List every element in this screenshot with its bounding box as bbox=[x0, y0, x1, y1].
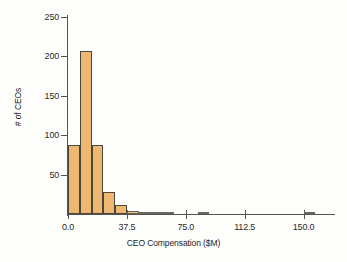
histogram-bar bbox=[92, 145, 104, 214]
histogram-bar bbox=[304, 212, 316, 214]
x-axis-tick bbox=[245, 210, 246, 219]
y-axis-tick bbox=[61, 175, 68, 176]
y-axis-tick-label: 150 bbox=[19, 91, 59, 101]
x-axis-tick-label: 75.0 bbox=[163, 222, 209, 232]
y-axis-tick bbox=[61, 17, 68, 18]
plot-area bbox=[68, 17, 333, 214]
y-axis-tick bbox=[61, 135, 68, 136]
histogram-bar bbox=[150, 212, 162, 214]
histogram-bar bbox=[198, 212, 210, 214]
histogram-chart: # of CEOs CEO Compensation ($M) 50100150… bbox=[0, 0, 347, 262]
x-axis-tick-label: 37.5 bbox=[104, 222, 150, 232]
histogram-bar bbox=[103, 192, 115, 214]
y-axis-tick-label: 100 bbox=[19, 130, 59, 140]
x-axis-line bbox=[67, 214, 335, 215]
x-axis-tick bbox=[186, 210, 187, 219]
y-axis-tick bbox=[61, 96, 68, 97]
y-axis-title: # of CEOs bbox=[13, 77, 23, 137]
histogram-bar bbox=[115, 205, 127, 214]
x-axis-tick-label: 150.0 bbox=[281, 222, 327, 232]
y-axis-tick-label: 250 bbox=[19, 12, 59, 22]
y-axis-tick bbox=[61, 56, 68, 57]
histogram-bar bbox=[127, 211, 139, 214]
y-axis-tick-label: 50 bbox=[19, 170, 59, 180]
x-axis-tick-label: 0.0 bbox=[45, 222, 91, 232]
histogram-bar bbox=[162, 212, 174, 214]
histogram-bar bbox=[80, 51, 92, 214]
x-axis-title: CEO Compensation ($M) bbox=[0, 238, 347, 248]
x-axis-tick-label: 112.5 bbox=[222, 222, 268, 232]
histogram-bar bbox=[68, 145, 80, 214]
y-axis-tick-label: 200 bbox=[19, 51, 59, 61]
histogram-bar bbox=[139, 212, 151, 214]
